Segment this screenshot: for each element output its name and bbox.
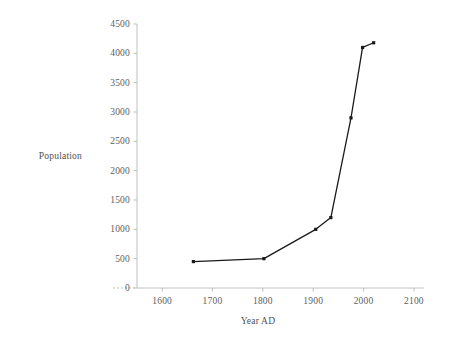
y-tick-label: 2000 — [88, 166, 130, 176]
y-tick-label: 4500 — [88, 19, 130, 29]
plot-area: 1662: 4501802: 5001905: 10001935: 120019… — [0, 0, 455, 339]
x-axis-title: Year AD — [241, 316, 275, 326]
x-tick-label: 2100 — [404, 296, 424, 306]
data-point-markers: 1662: 4501802: 5001905: 10001935: 120019… — [192, 41, 375, 263]
y-tick-label: 2500 — [88, 136, 130, 146]
data-point-marker: 1975: 2900 — [349, 116, 352, 119]
x-tick-label: 1800 — [253, 296, 273, 306]
data-point-marker: 1662: 450 — [192, 260, 195, 263]
data-point-marker: 1998: 4100 — [361, 46, 364, 49]
data-point-marker: 1802: 500 — [262, 257, 265, 260]
x-tick-label: 1700 — [203, 296, 223, 306]
y-axis-ticks — [134, 24, 138, 288]
y-tick-label: 3000 — [88, 107, 130, 117]
x-tick-label: 2000 — [354, 296, 374, 306]
y-tick-label: 3500 — [88, 78, 130, 88]
x-axis-ticks — [162, 288, 414, 292]
data-point-marker: 1935: 1200 — [329, 216, 332, 219]
y-tick-label: 0 — [88, 283, 130, 293]
x-tick-label: 1600 — [152, 296, 172, 306]
data-point-marker: 2020: 4180 — [372, 41, 375, 44]
data-line — [193, 43, 373, 262]
population-line-chart: 1662: 4501802: 5001905: 10001935: 120019… — [0, 0, 455, 339]
y-tick-label: 500 — [88, 254, 130, 264]
y-tick-label: 1500 — [88, 195, 130, 205]
y-tick-label: 4000 — [88, 48, 130, 58]
y-axis-title: Population — [18, 151, 82, 161]
x-tick-label: 1900 — [303, 296, 323, 306]
y-tick-label: 1000 — [88, 224, 130, 234]
data-point-marker: 1905: 1000 — [314, 228, 317, 231]
